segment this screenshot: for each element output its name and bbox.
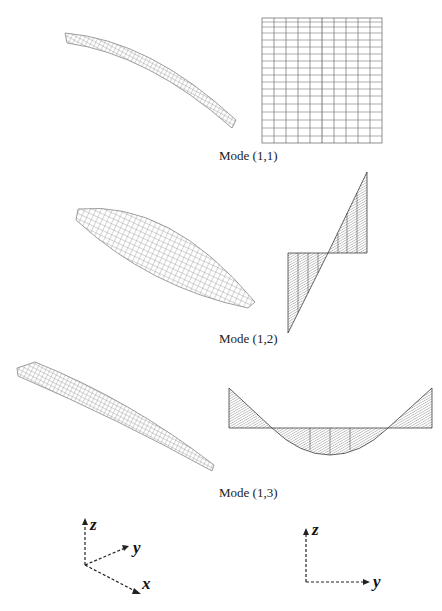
mode-1-1-3d-view (65, 33, 236, 128)
axis-x-label-3d: x (141, 574, 151, 593)
mode-1-2-3d-view (76, 208, 255, 308)
axis-y-label-2d: y (371, 572, 381, 591)
mode-1-1-2d-view (262, 18, 382, 143)
axis-y-label-3d: y (131, 538, 141, 557)
axis-z-label-2d: z (311, 520, 319, 539)
mode-1-3-2d-view (229, 388, 432, 455)
caption-mode-1-2: Mode (1,2) (219, 331, 278, 347)
axes-2d (306, 532, 365, 582)
mode-1-2-2d-view (288, 172, 367, 333)
axis-z-label-3d: z (89, 515, 97, 534)
mode-1-3-3d-view (17, 362, 214, 471)
caption-mode-1-1: Mode (1,1) (219, 148, 278, 164)
caption-mode-1-3: Mode (1,3) (219, 485, 278, 501)
mode-shapes-figure: z y x z y (0, 0, 442, 611)
